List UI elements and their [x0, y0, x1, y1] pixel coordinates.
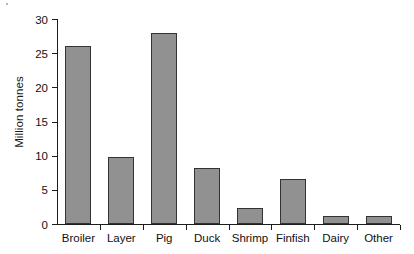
bar-broiler: [65, 46, 91, 224]
bar-shrimp: [237, 208, 263, 224]
x-axis-label-other: Other: [357, 232, 400, 244]
x-axis-tick: [314, 225, 315, 230]
y-axis-tick-label-wrap: 0: [52, 224, 57, 225]
x-axis-tick: [100, 225, 101, 230]
x-axis-tick: [271, 225, 272, 230]
bar-pig: [151, 33, 177, 224]
y-axis-tick-label: 15: [35, 116, 48, 128]
bar-layer: [108, 157, 134, 224]
x-axis-label-duck: Duck: [186, 232, 229, 244]
y-axis-tick-label-wrap: 25: [52, 53, 57, 54]
y-axis-tick-label: 30: [35, 14, 48, 26]
x-axis-label-broiler: Broiler: [57, 232, 100, 244]
x-axis-tick: [400, 225, 401, 230]
x-axis-label-dairy: Dairy: [314, 232, 357, 244]
x-axis-tick: [186, 225, 187, 230]
x-axis-label-shrimp: Shrimp: [229, 232, 272, 244]
x-axis-tick: [143, 225, 144, 230]
y-axis-line: [57, 19, 58, 225]
x-axis-label-layer: Layer: [100, 232, 143, 244]
bar-other: [366, 216, 392, 224]
y-axis-tick-label-wrap: 30: [52, 19, 57, 20]
y-axis-tick-label: 20: [35, 82, 48, 94]
y-axis-tick-label-wrap: 5: [52, 190, 57, 191]
x-axis-tick: [357, 225, 358, 230]
bar-duck: [194, 168, 220, 224]
y-axis-tick-label: 0: [42, 219, 48, 231]
y-axis-tick-label: 5: [42, 184, 48, 196]
y-axis-tick-label-wrap: 10: [52, 156, 57, 157]
bar-dairy: [323, 216, 349, 224]
y-axis-tick-label-wrap: 15: [52, 122, 57, 123]
scan-artifact: [6, 3, 8, 5]
y-axis-tick-label: 10: [35, 150, 48, 162]
y-axis-tick-label-wrap: 20: [52, 87, 57, 88]
x-axis-label-pig: Pig: [143, 232, 186, 244]
bar-finfish: [280, 179, 306, 224]
y-axis-label: Million tonnes: [10, 0, 28, 224]
y-axis-tick-label: 25: [35, 48, 48, 60]
bar-chart: Million tonnes 051015202530 BroilerLayer…: [0, 0, 414, 254]
x-axis-label-finfish: Finfish: [271, 232, 314, 244]
x-axis-tick: [229, 225, 230, 230]
plot-area: 051015202530 BroilerLayerPigDuckShrimpFi…: [57, 19, 400, 224]
